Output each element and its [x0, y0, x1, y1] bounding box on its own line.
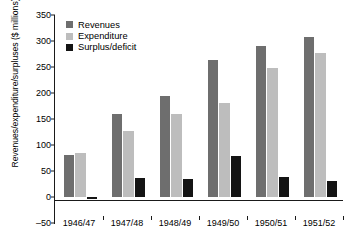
x-axis-category-label: 1950/51: [247, 218, 295, 228]
bar-revenues: [208, 60, 219, 197]
bar-expenditure: [171, 114, 182, 197]
bar-expenditure: [315, 53, 326, 197]
bar-surplus-deficit: [183, 179, 194, 197]
legend-label: Surplus/deficit: [78, 42, 136, 52]
bar-revenues: [256, 46, 267, 197]
y-axis-tick-label: 350: [36, 10, 51, 20]
y-axis-tick-label: 50: [41, 166, 51, 176]
x-axis-category-label: 1949/50: [199, 218, 247, 228]
y-axis-tick-label: 150: [36, 114, 51, 124]
legend-label: Revenues: [78, 20, 120, 30]
legend-item: Expenditure: [66, 30, 136, 41]
bar-expenditure: [219, 103, 230, 197]
bar-expenditure: [267, 68, 278, 197]
bar-group: 1948/49: [151, 15, 199, 223]
x-axis-category-label: 1946/47: [55, 218, 103, 228]
legend-item: Revenues: [66, 19, 136, 30]
bar-surplus-deficit: [87, 197, 98, 199]
y-axis-tick-label: 250: [36, 62, 51, 72]
legend-swatch-icon: [66, 44, 73, 51]
bar-group: 1950/51: [247, 15, 295, 223]
y-axis-tick-label: –50: [36, 218, 51, 228]
bar-revenues: [64, 155, 75, 197]
legend-swatch-icon: [66, 21, 73, 28]
bar-revenues: [304, 37, 315, 197]
y-axis-tick-label: 200: [36, 88, 51, 98]
bar-surplus-deficit: [135, 178, 146, 197]
bar-chart: Revenues/expenditure/surpluses ($ millio…: [0, 0, 353, 245]
legend-label: Expenditure: [78, 31, 128, 41]
x-axis-category-label: 1948/49: [151, 218, 199, 228]
bar-expenditure: [123, 131, 134, 197]
bar-revenues: [112, 114, 123, 197]
bar-surplus-deficit: [279, 177, 290, 197]
chart-legend: RevenuesExpenditureSurplus/deficit: [66, 19, 136, 53]
x-axis-category-label: 1947/48: [103, 218, 151, 228]
bar-group: 1951/52: [295, 15, 343, 223]
bar-surplus-deficit: [327, 181, 338, 197]
bar-group: 1949/50: [199, 15, 247, 223]
legend-item: Surplus/deficit: [66, 42, 136, 53]
bar-expenditure: [75, 153, 86, 197]
bar-revenues: [160, 96, 171, 197]
y-axis-title: Revenues/expenditure/surpluses ($ millio…: [10, 0, 20, 183]
legend-swatch-icon: [66, 33, 73, 40]
y-axis-tick-label: 100: [36, 140, 51, 150]
y-axis-tick-label: 300: [36, 36, 51, 46]
x-axis-category-label: 1951/52: [295, 218, 343, 228]
bar-surplus-deficit: [231, 156, 242, 197]
x-axis-tick-mark: [343, 216, 344, 220]
